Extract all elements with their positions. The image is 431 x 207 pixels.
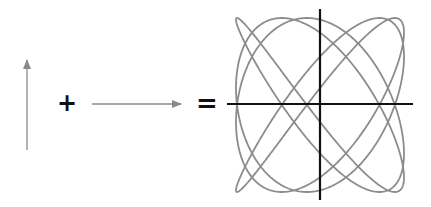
lissajous-diagram: + = (0, 0, 431, 207)
equals-operator: = (196, 90, 218, 116)
plus-operator: + (57, 91, 77, 115)
